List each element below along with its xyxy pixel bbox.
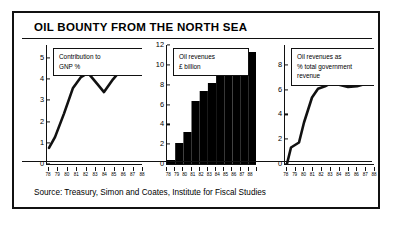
- chart-3-xtick: 80: [301, 172, 306, 177]
- chart-panel-oil-revenues: Oil revenues £ billion: [144, 43, 256, 183]
- chart-3-caption: Oil revenues as % total government reven…: [291, 48, 374, 86]
- chart-3-xtick: 78: [283, 172, 288, 177]
- chart-2-plot-inner: Oil revenues £ billion: [167, 45, 256, 164]
- chart-1-xaxis-labels: 78 79 80 81 82 83 84 85 86 87 88: [46, 167, 142, 183]
- chart-1-xtick: 82: [83, 172, 88, 177]
- chart-1-ytick-1: 1: [40, 139, 47, 146]
- chart-2-xtick: 81: [190, 172, 195, 177]
- chart-3-plot-inner: Oil revenues as % total government reven…: [285, 45, 374, 164]
- chart-1-xtick: 84: [102, 172, 107, 177]
- chart-3-xtick: 84: [336, 172, 341, 177]
- chart-1-ytick-3: 3: [40, 97, 47, 104]
- chart-1-plot-inner: Contribution to GNP %: [47, 45, 142, 164]
- chart-3-xtick: 87: [363, 172, 368, 177]
- chart-3-ytick-2: 2: [278, 136, 285, 143]
- chart-panel-share-of-government-revenue: Oil revenues as % total government reven…: [262, 43, 374, 183]
- title-divider: [22, 38, 372, 39]
- chart-3-ytick-8: 8: [278, 61, 285, 68]
- chart-3-ytick-6: 6: [278, 86, 285, 93]
- chart-1-caption: Contribution to GNP %: [53, 48, 142, 76]
- chart-2-xtick: 83: [207, 172, 212, 177]
- chart-3-xtick: 82: [319, 172, 324, 177]
- chart-3-xtick: 79: [292, 172, 297, 177]
- chart-2-xtick: 88: [248, 172, 253, 177]
- chart-1-xtick: 86: [121, 172, 126, 177]
- chart-2-plot-area: Oil revenues £ billion: [166, 45, 256, 165]
- chart-2-ytick-6: 6: [160, 101, 167, 108]
- chart-3-xtick: 86: [354, 172, 359, 177]
- figure-root: OIL BOUNTY FROM THE NORTH SEA Contributi…: [0, 0, 404, 226]
- chart-panel-gnp-contribution: Contribution to GNP % 0 1 2 3 4 5 78 79 …: [24, 43, 142, 183]
- chart-2-ytick-12: 12: [156, 41, 167, 48]
- chart-3-xaxis-labels: 78 79 80 81 82 83 84 85 86 87 88: [284, 167, 374, 183]
- chart-2-caption: Oil revenues £ billion: [173, 48, 249, 76]
- chart-3-plot-area: Oil revenues as % total government reven…: [284, 45, 374, 165]
- page-title: OIL BOUNTY FROM THE NORTH SEA: [34, 21, 247, 33]
- chart-1-ytick-5: 5: [40, 54, 47, 61]
- chart-1-xtick: 81: [74, 172, 79, 177]
- chart-2-xtick: 78: [166, 172, 171, 177]
- source-divider: [22, 161, 372, 162]
- chart-3-ytick-4: 4: [278, 111, 285, 118]
- chart-1-xtick: 79: [55, 172, 60, 177]
- chart-1-ytick-4: 4: [40, 75, 47, 82]
- chart-1-xtick: 87: [130, 172, 135, 177]
- chart-1-xtick: 78: [45, 172, 50, 177]
- chart-2-xtick: 85: [223, 172, 228, 177]
- chart-2-ytick-8: 8: [160, 81, 167, 88]
- chart-2-xtick: 86: [231, 172, 236, 177]
- chart-3-xtick: 81: [310, 172, 315, 177]
- chart-1-xtick: 85: [111, 172, 116, 177]
- chart-2-xaxis-labels: 78 79 80 81 82 83 84 85 86 87 88: [166, 167, 256, 183]
- chart-2-ytick-4: 4: [160, 121, 167, 128]
- chart-1-xtick: 80: [64, 172, 69, 177]
- chart-1-ytick-2: 2: [40, 118, 47, 125]
- chart-1-xtick: 83: [92, 172, 97, 177]
- figure-frame: OIL BOUNTY FROM THE NORTH SEA Contributi…: [12, 11, 380, 209]
- chart-3-xtick: 88: [372, 172, 377, 177]
- chart-1-plot-area: Contribution to GNP % 0 1 2 3 4 5: [46, 45, 142, 165]
- chart-3-xtick: 83: [327, 172, 332, 177]
- source-note: Source: Treasury, Simon and Coates, Inst…: [34, 188, 266, 197]
- chart-2-ytick-2: 2: [160, 140, 167, 147]
- chart-2-xtick: 82: [199, 172, 204, 177]
- chart-2-ytick-10: 10: [156, 61, 167, 68]
- chart-2-xtick: 79: [174, 172, 179, 177]
- chart-2-xtick: 87: [239, 172, 244, 177]
- chart-2-xtick: 84: [215, 172, 220, 177]
- chart-2-xtick: 80: [182, 172, 187, 177]
- chart-3-xtick: 85: [345, 172, 350, 177]
